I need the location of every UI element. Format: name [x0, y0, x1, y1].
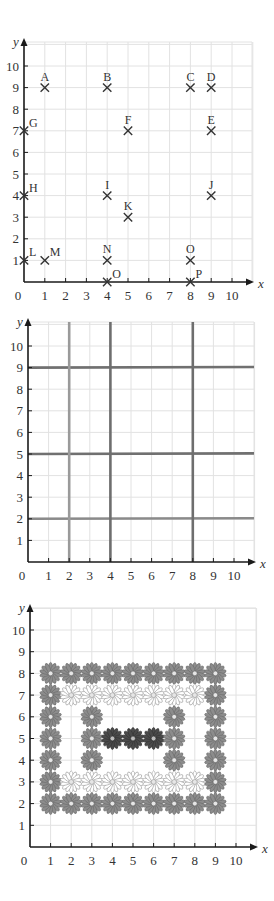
- flower-center: [213, 780, 218, 785]
- horizontal-line-y9: [28, 367, 254, 368]
- point-marker-A: A: [40, 70, 49, 92]
- grid: [28, 322, 255, 562]
- flower-icon: [101, 771, 123, 793]
- flower-icon: [163, 662, 185, 684]
- point-marker-B: B: [103, 70, 111, 92]
- flower-icon: [39, 662, 61, 684]
- flower-center: [89, 693, 94, 698]
- horizontal-line-y5: [28, 453, 254, 454]
- point-label: P: [195, 267, 202, 281]
- x-tick-label: 5: [128, 568, 135, 583]
- flower-icon: [204, 728, 226, 750]
- flower-icon: [81, 771, 103, 793]
- x-tick-label: 6: [148, 568, 155, 583]
- flower-center: [172, 693, 177, 698]
- flower-icon: [142, 793, 164, 815]
- point-label: B: [103, 70, 111, 84]
- point-marker-O: O: [186, 242, 195, 264]
- flower-icon: [204, 749, 226, 771]
- point-label: I: [105, 178, 109, 192]
- y-tick-label: 4: [17, 468, 24, 483]
- flower-icon: [163, 771, 185, 793]
- flower-center: [69, 671, 74, 676]
- y-tick-label: 8: [17, 382, 24, 397]
- flower-center: [131, 801, 136, 806]
- y-tick-label: 5: [13, 167, 20, 182]
- x-axis-title: x: [261, 841, 268, 856]
- flower-icon: [122, 684, 144, 706]
- flower-center: [172, 714, 177, 719]
- y-tick-label: 3: [19, 774, 26, 789]
- flower-icon: [101, 684, 123, 706]
- x-tick-label: 7: [166, 288, 173, 300]
- flower-center: [172, 736, 177, 741]
- flower-icon: [142, 728, 164, 750]
- x-tick-label: 4: [109, 853, 116, 868]
- point-marker-H: H: [20, 181, 38, 200]
- x-tick-label: 10: [228, 568, 241, 583]
- x-tick-label: 8: [190, 568, 197, 583]
- flower-center: [48, 714, 53, 719]
- flower-center: [110, 693, 115, 698]
- flower-center: [213, 714, 218, 719]
- flower-center: [89, 801, 94, 806]
- x-tick-label: 1: [45, 568, 52, 583]
- flower-icon: [142, 684, 164, 706]
- chart-1-canvas: 01234567891012345678910xyABCDEFGHIJKLMNO…: [0, 0, 274, 300]
- y-tick-label: 1: [13, 253, 20, 268]
- chart-3-canvas: 01234567891012345678910xy: [0, 590, 274, 901]
- point-label: G: [29, 116, 38, 130]
- flower-icon: [39, 684, 61, 706]
- point-marker-G: G: [20, 116, 38, 135]
- point-marker-E: E: [207, 113, 215, 135]
- flower-center: [131, 671, 136, 676]
- point-label: F: [125, 113, 132, 127]
- x-tick-label: 3: [83, 288, 90, 300]
- y-tick-label: 7: [19, 688, 26, 703]
- flower-icon: [81, 793, 103, 815]
- y-tick-label: 10: [6, 59, 19, 74]
- point-label: J: [209, 178, 214, 192]
- flower-icon: [122, 728, 144, 750]
- point-label: E: [208, 113, 215, 127]
- flower-center: [48, 801, 53, 806]
- flower-center: [172, 671, 177, 676]
- coordinate-points-chart: 01234567891012345678910xyABCDEFGHIJKLMNO…: [0, 0, 274, 300]
- y-tick-label: 6: [19, 709, 26, 724]
- x-tick-label: 4: [104, 288, 111, 300]
- flower-center: [131, 693, 136, 698]
- x-tick-label: 0: [19, 568, 26, 583]
- y-axis-title: y: [15, 314, 23, 329]
- point-marker-C: C: [186, 70, 194, 92]
- x-tick-label: 2: [62, 288, 69, 300]
- flower-icon: [122, 662, 144, 684]
- flower-center: [89, 758, 94, 763]
- flower-icon: [163, 793, 185, 815]
- flower-center: [69, 801, 74, 806]
- flower-icon: [142, 771, 164, 793]
- y-tick-label: 9: [17, 360, 24, 375]
- grid-lines-chart: 01234567891012345678910xy: [0, 300, 274, 590]
- x-tick-label: 6: [150, 853, 157, 868]
- highlight-lines: [28, 322, 254, 562]
- flower-icon: [39, 793, 61, 815]
- y-tick-label: 1: [19, 818, 26, 833]
- y-tick-label: 5: [17, 447, 24, 462]
- x-axis-title: x: [259, 556, 266, 571]
- x-tick-label: 3: [89, 853, 96, 868]
- flower-icon: [39, 728, 61, 750]
- flower-icon: [60, 662, 82, 684]
- flower-center: [192, 693, 197, 698]
- x-tick-label: 2: [68, 853, 75, 868]
- flower-center: [48, 671, 53, 676]
- x-tick-label: 0: [21, 853, 28, 868]
- flower-center: [151, 671, 156, 676]
- flower-icon: [122, 771, 144, 793]
- flower-center: [89, 671, 94, 676]
- y-tick-label: 10: [10, 339, 23, 354]
- point-label: M: [50, 245, 61, 259]
- flower-center: [110, 671, 115, 676]
- point-label: L: [29, 245, 36, 259]
- flower-center: [110, 801, 115, 806]
- flower-icon: [142, 662, 164, 684]
